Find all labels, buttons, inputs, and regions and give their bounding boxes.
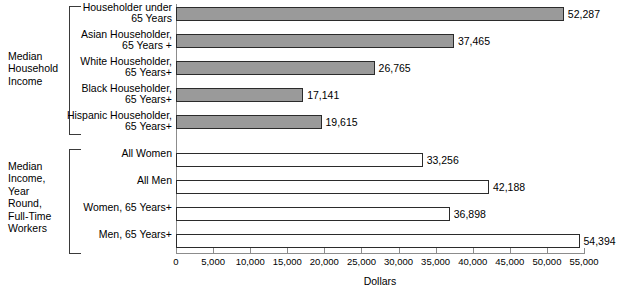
x-tick-mark [287,248,288,254]
category-label: White Householder, 65 Years+ [38,56,172,79]
category-label: Householder under 65 Years [38,2,172,25]
category-label: Hispanic Householder, 65 Years+ [38,110,172,133]
x-tick-label: 25,000 [347,256,376,267]
x-tick-label: 20,000 [310,256,339,267]
x-tick-label: 15,000 [273,256,302,267]
bar [176,88,303,102]
x-tick-label: 55,000 [569,256,598,267]
bar-value-label: 26,765 [379,62,411,74]
x-tick-label: 40,000 [458,256,487,267]
category-label: All Men [38,175,172,186]
bar-value-label: 37,465 [458,35,490,47]
bar [176,207,450,221]
x-tick-mark [324,248,325,254]
x-tick-mark [510,248,511,254]
x-tick-mark [584,248,585,254]
x-tick-label: 5,000 [201,256,225,267]
bar [176,61,375,75]
x-tick-label: 45,000 [495,256,524,267]
x-tick-label: 10,000 [236,256,265,267]
category-label: Asian Householder, 65 Years + [38,29,172,52]
bar-value-label: 33,256 [427,154,459,166]
bar-value-label: 52,287 [568,8,600,20]
x-tick-mark [436,248,437,254]
x-tick-mark [361,248,362,254]
x-tick-label: 35,000 [421,256,450,267]
bar-value-label: 36,898 [454,208,486,220]
category-label: Men, 65 Years+ [38,229,172,240]
x-tick-label: 50,000 [532,256,561,267]
x-axis-line [176,253,585,254]
category-label: Black Householder, 65 Years+ [38,83,172,106]
x-tick-mark [176,248,177,254]
bar [176,153,423,167]
category-label: Women, 65 Years+ [38,202,172,213]
x-tick-mark [473,248,474,254]
bar [176,180,489,194]
bar-value-label: 17,141 [307,89,339,101]
category-label: All Women [38,148,172,159]
bar [176,34,454,48]
x-tick-label: 30,000 [384,256,413,267]
x-axis-title: Dollars [176,275,584,287]
group-label-median-income-fulltime-workers: Median Income, Year Round, Full-Time Wor… [8,160,70,234]
bar-value-label: 42,188 [493,181,525,193]
bar [176,7,564,21]
x-tick-mark [399,248,400,254]
x-tick-mark [213,248,214,254]
x-tick-label: 0 [173,256,178,267]
x-tick-mark [250,248,251,254]
bar-value-label: 54,394 [584,235,616,247]
x-tick-mark [547,248,548,254]
bar-chart: Median Household Income Median Income, Y… [0,0,619,297]
bar [176,234,580,248]
bar [176,115,322,129]
bar-value-label: 19,615 [326,116,358,128]
